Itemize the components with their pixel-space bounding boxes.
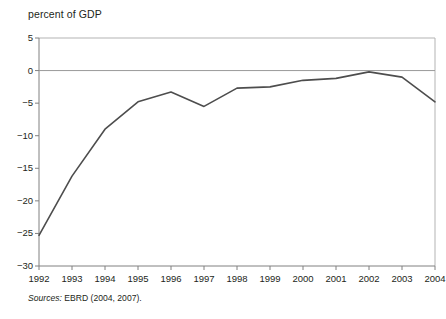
source-note: Sources: EBRD (2004, 2007). <box>28 293 142 303</box>
y-tick-label: −10 <box>1 131 33 141</box>
y-tick-marks <box>35 38 39 266</box>
source-label: Sources: <box>28 293 62 303</box>
y-tick-label: 0 <box>1 66 33 76</box>
source-value: EBRD (2004, 2007). <box>64 293 141 303</box>
x-tick-label: 2004 <box>415 274 446 284</box>
y-tick-label: −30 <box>1 261 33 271</box>
data-series-line <box>39 72 435 236</box>
plot-area: 50−5−10−15−20−25−30 19921993199419951996… <box>0 0 446 319</box>
y-tick-label: −20 <box>1 196 33 206</box>
y-tick-label: −25 <box>1 228 33 238</box>
y-tick-label: 5 <box>1 33 33 43</box>
x-tick-marks <box>39 266 435 270</box>
line-chart-svg <box>0 0 446 319</box>
y-tick-label: −15 <box>1 163 33 173</box>
y-tick-label: −5 <box>1 98 33 108</box>
chart-figure: percent of GDP 50−5−10−15−20−25−30 19921… <box>0 0 446 319</box>
